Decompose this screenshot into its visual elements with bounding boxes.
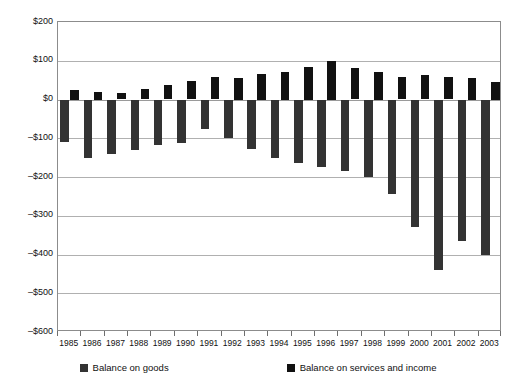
x-axis-tick [104, 331, 105, 336]
x-axis-tick [80, 331, 81, 336]
x-axis-tick [244, 331, 245, 336]
x-axis-tick [408, 331, 409, 336]
bar-services-1987 [117, 93, 126, 100]
y-axis-tick-label: –$300 [1, 210, 53, 219]
bar-services-2000 [421, 75, 430, 99]
bar-services-1996 [327, 61, 336, 100]
x-axis-label-1999: 1999 [384, 338, 407, 349]
y-axis-tick-label: –$600 [1, 327, 53, 336]
bar-services-1998 [374, 72, 383, 99]
bar-services-1994 [281, 72, 290, 99]
x-axis-label-1990: 1990 [174, 338, 197, 349]
x-axis-tick [478, 331, 479, 336]
bar-goods-1991 [201, 100, 210, 129]
x-axis-tick [361, 331, 362, 336]
legend-label: Balance on goods [93, 363, 169, 373]
bar-goods-1987 [107, 100, 116, 154]
x-axis-label-1987: 1987 [104, 338, 127, 349]
x-axis-label-2003: 2003 [478, 338, 501, 349]
bar-goods-2000 [411, 100, 420, 228]
x-axis-label-2000: 2000 [408, 338, 431, 349]
x-axis-ticks [57, 331, 501, 337]
bar-goods-1995 [294, 100, 303, 164]
y-axis-tick-label: –$400 [1, 249, 53, 258]
bar-goods-1994 [271, 100, 280, 158]
legend-swatch-icon [80, 364, 88, 372]
x-axis-tick [197, 331, 198, 336]
x-axis-label-1992: 1992 [221, 338, 244, 349]
plot-area [57, 21, 501, 331]
bar-services-1999 [398, 77, 407, 99]
x-axis-label-1989: 1989 [150, 338, 173, 349]
x-axis-tick [337, 331, 338, 336]
x-axis-tick [267, 331, 268, 336]
x-axis-tick [127, 331, 128, 336]
y-axis-tick-label: $100 [1, 55, 53, 64]
x-axis-label-1994: 1994 [267, 338, 290, 349]
x-axis-tick [150, 331, 151, 336]
bar-goods-1992 [224, 100, 233, 139]
y-axis-tick-label: –$500 [1, 288, 53, 297]
bar-goods-2001 [434, 100, 443, 271]
y-axis-tick-label: –$100 [1, 133, 53, 142]
y-axis-tick-label: $200 [1, 17, 53, 26]
bar-services-1997 [351, 68, 360, 100]
bar-goods-1988 [131, 100, 140, 150]
x-axis: 1985198619871988198919901991199219931994… [57, 338, 501, 352]
y-axis-tick-label: –$200 [1, 172, 53, 181]
legend-entry-1: Balance on services and income [287, 363, 437, 373]
x-axis-tick [291, 331, 292, 336]
x-axis-tick [57, 331, 58, 336]
bar-chart: $200$100$0–$100–$200–$300–$400–$500–$600… [0, 0, 516, 383]
x-axis-label-1996: 1996 [314, 338, 337, 349]
bar-services-1986 [94, 92, 103, 100]
bar-services-1985 [70, 90, 79, 100]
bar-goods-1996 [317, 100, 326, 168]
bar-goods-1990 [177, 100, 186, 143]
x-axis-label-1998: 1998 [361, 338, 384, 349]
x-axis-label-2001: 2001 [431, 338, 454, 349]
x-axis-label-1997: 1997 [337, 338, 360, 349]
bar-goods-1993 [247, 100, 256, 150]
bar-services-1989 [164, 85, 173, 100]
bar-goods-1999 [388, 100, 397, 195]
bar-services-1990 [187, 81, 196, 100]
x-axis-tick [221, 331, 222, 336]
x-axis-tick [314, 331, 315, 336]
bar-goods-2002 [458, 100, 467, 241]
bar-goods-1985 [60, 100, 69, 143]
x-axis-label-2002: 2002 [454, 338, 477, 349]
bar-services-1992 [234, 78, 243, 99]
x-axis-label-1995: 1995 [291, 338, 314, 349]
x-axis-tick [174, 331, 175, 336]
legend-entry-0: Balance on goods [80, 363, 169, 373]
x-axis-label-1988: 1988 [127, 338, 150, 349]
x-axis-tick [431, 331, 432, 336]
bar-services-2002 [468, 78, 477, 99]
x-axis-label-1985: 1985 [57, 338, 80, 349]
legend-label: Balance on services and income [300, 363, 437, 373]
bar-goods-2003 [481, 100, 490, 255]
bar-goods-1986 [84, 100, 93, 158]
bars-layer [58, 22, 500, 330]
bar-services-2001 [444, 77, 453, 99]
bar-services-1991 [211, 77, 220, 99]
bar-goods-1997 [341, 100, 350, 172]
x-axis-tick [500, 331, 501, 336]
x-axis-label-1986: 1986 [80, 338, 103, 349]
bar-services-2003 [491, 82, 500, 99]
y-axis-tick-label: $0 [1, 94, 53, 103]
bar-goods-1998 [364, 100, 373, 178]
bar-goods-1989 [154, 100, 163, 146]
bar-services-1988 [141, 89, 150, 100]
x-axis-label-1993: 1993 [244, 338, 267, 349]
bar-services-1995 [304, 67, 313, 100]
x-axis-tick [454, 331, 455, 336]
chart-legend: Balance on goodsBalance on services and … [0, 360, 516, 376]
bar-services-1993 [257, 74, 266, 99]
x-axis-tick [384, 331, 385, 336]
y-axis: $200$100$0–$100–$200–$300–$400–$500–$600 [0, 21, 53, 331]
x-axis-label-1991: 1991 [197, 338, 220, 349]
legend-swatch-icon [287, 364, 295, 372]
